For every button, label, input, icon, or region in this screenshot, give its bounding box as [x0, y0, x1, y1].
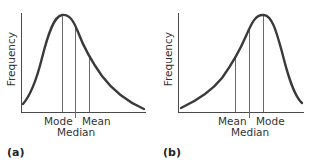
distribution-curve	[23, 15, 144, 109]
chart-b-plot	[156, 0, 313, 166]
median-label: Median	[57, 127, 95, 138]
distribution-curve	[181, 15, 302, 108]
chart-panel-a: Frequency Mode Mean Median (a)	[0, 0, 157, 166]
y-axis-label: Frequency	[163, 36, 174, 86]
panel-tag-a: (a)	[7, 147, 24, 158]
chart-a-plot	[0, 0, 157, 166]
chart-panel-b: Frequency Mean Mode Median (b)	[156, 0, 313, 166]
mode-label: Mode	[256, 116, 285, 127]
mean-label: Mean	[218, 116, 247, 127]
mean-label: Mean	[82, 116, 111, 127]
panel-tag-b: (b)	[163, 147, 181, 158]
median-label: Median	[231, 127, 269, 138]
mode-label: Mode	[44, 116, 73, 127]
y-axis-label: Frequency	[6, 36, 17, 86]
